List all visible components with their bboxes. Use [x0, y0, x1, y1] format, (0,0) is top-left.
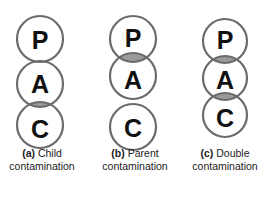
node-c-label: C — [31, 115, 49, 143]
caption-c: (c) Double contamination — [180, 147, 266, 173]
node-c-label: C — [216, 104, 234, 132]
node-a-label: A — [31, 70, 49, 98]
caption-c-line1: Double — [216, 147, 249, 159]
node-p-label: P — [125, 24, 142, 52]
caption-b-line1: Parent — [128, 147, 159, 159]
node-c-label: C — [124, 114, 142, 142]
caption-c-line2: contamination — [192, 160, 257, 172]
node-p-label: P — [217, 26, 234, 54]
node-a-label: A — [216, 66, 234, 94]
panel-a: P A C — [17, 16, 63, 148]
caption-a-line2: contamination — [9, 160, 74, 172]
panel-c: P A C — [203, 19, 247, 137]
caption-a: (a) Child contamination — [0, 147, 87, 173]
caption-b-line2: contamination — [102, 160, 167, 172]
caption-c-prefix: (c) — [200, 147, 213, 159]
caption-b-prefix: (b) — [111, 147, 124, 159]
node-a-label: A — [124, 66, 142, 94]
node-p-label: P — [32, 26, 49, 54]
caption-b: (b) Parent contamination — [90, 147, 180, 173]
caption-a-prefix: (a) — [22, 147, 35, 159]
panel-b: P A C — [110, 16, 156, 150]
caption-a-line1: Child — [38, 147, 62, 159]
